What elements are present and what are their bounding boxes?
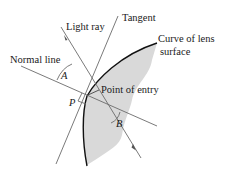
refraction-diagram: Light ray Tangent Curve of lens surface … <box>0 0 228 176</box>
curve-label-line1: Curve of lens <box>158 33 215 44</box>
light-ray-label: Light ray <box>66 21 106 32</box>
angle-a-label: A <box>60 70 68 81</box>
point-p-label: P <box>68 97 76 108</box>
angle-b-label: B <box>116 118 123 129</box>
point-of-entry-label: Point of entry <box>101 84 159 95</box>
tangent-label: Tangent <box>122 12 156 23</box>
ray-arrow-icon <box>64 35 68 41</box>
ray-arrow-icon <box>132 144 137 151</box>
curve-label-line2: surface <box>160 46 191 57</box>
normal-line-label: Normal line <box>10 54 61 65</box>
